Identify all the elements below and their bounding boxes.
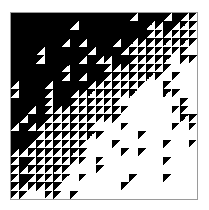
black-tile bbox=[45, 47, 53, 55]
black-tile bbox=[104, 47, 112, 55]
white-tile bbox=[180, 174, 188, 182]
triangle-tile bbox=[62, 106, 70, 114]
triangle-tile bbox=[112, 140, 120, 148]
white-tile bbox=[163, 191, 171, 199]
triangle-tile bbox=[87, 47, 95, 55]
black-tile bbox=[36, 13, 44, 21]
white-tile bbox=[138, 123, 146, 131]
triangle-tile bbox=[155, 72, 163, 80]
triangle-tile bbox=[53, 123, 61, 131]
black-tile bbox=[70, 13, 78, 21]
black-tile bbox=[53, 72, 61, 80]
triangle-tile bbox=[19, 148, 27, 156]
triangle-tile bbox=[11, 165, 19, 173]
white-tile bbox=[146, 174, 154, 182]
white-tile bbox=[87, 140, 95, 148]
white-tile bbox=[28, 191, 36, 199]
triangle-tile bbox=[45, 123, 53, 131]
white-tile bbox=[138, 89, 146, 97]
black-tile bbox=[19, 55, 27, 63]
black-tile bbox=[36, 72, 44, 80]
white-tile bbox=[146, 182, 154, 190]
white-tile bbox=[146, 123, 154, 131]
black-tile bbox=[11, 140, 19, 148]
black-tile bbox=[28, 55, 36, 63]
triangle-tile bbox=[28, 140, 36, 148]
white-tile bbox=[129, 148, 137, 156]
white-tile bbox=[112, 182, 120, 190]
triangle-tile bbox=[36, 165, 44, 173]
triangle-tile bbox=[79, 98, 87, 106]
white-tile bbox=[138, 174, 146, 182]
triangle-tile bbox=[155, 47, 163, 55]
black-tile bbox=[28, 38, 36, 46]
triangle-tile bbox=[180, 38, 188, 46]
black-tile bbox=[45, 38, 53, 46]
black-tile bbox=[96, 72, 104, 80]
white-tile bbox=[155, 191, 163, 199]
black-tile bbox=[11, 30, 19, 38]
white-tile bbox=[163, 131, 171, 139]
black-tile bbox=[45, 64, 53, 72]
white-tile bbox=[70, 174, 78, 182]
triangle-tile bbox=[36, 123, 44, 131]
white-tile bbox=[172, 98, 180, 106]
white-tile bbox=[129, 123, 137, 131]
black-tile bbox=[129, 30, 137, 38]
triangle-tile bbox=[138, 72, 146, 80]
white-tile bbox=[96, 191, 104, 199]
triangle-tile bbox=[138, 55, 146, 63]
black-tile bbox=[87, 72, 95, 80]
triangle-tile bbox=[163, 89, 171, 97]
triangle-tile bbox=[180, 114, 188, 122]
triangle-tile bbox=[11, 174, 19, 182]
white-tile bbox=[189, 47, 197, 55]
triangle-tile bbox=[79, 140, 87, 148]
triangle-tile bbox=[62, 72, 70, 80]
white-tile bbox=[155, 131, 163, 139]
triangle-tile bbox=[129, 81, 137, 89]
black-tile bbox=[146, 13, 154, 21]
black-tile bbox=[62, 47, 70, 55]
black-tile bbox=[62, 30, 70, 38]
triangle-tile bbox=[70, 140, 78, 148]
white-tile bbox=[189, 131, 197, 139]
white-tile bbox=[70, 182, 78, 190]
triangle-tile bbox=[53, 165, 61, 173]
black-tile bbox=[19, 72, 27, 80]
triangle-tile bbox=[70, 106, 78, 114]
triangle-tile bbox=[36, 47, 44, 55]
triangle-tile bbox=[70, 131, 78, 139]
white-tile bbox=[138, 114, 146, 122]
white-tile bbox=[189, 106, 197, 114]
white-tile bbox=[155, 157, 163, 165]
triangle-tile bbox=[172, 106, 180, 114]
triangle-tile bbox=[189, 114, 197, 122]
black-tile bbox=[19, 47, 27, 55]
black-tile bbox=[28, 98, 36, 106]
white-tile bbox=[96, 148, 104, 156]
triangle-tile bbox=[112, 72, 120, 80]
white-tile bbox=[163, 165, 171, 173]
triangle-tile bbox=[62, 131, 70, 139]
white-tile bbox=[87, 157, 95, 165]
black-tile bbox=[79, 81, 87, 89]
white-tile bbox=[155, 81, 163, 89]
triangle-tile bbox=[79, 148, 87, 156]
triangle-tile bbox=[11, 81, 19, 89]
triangle-tile bbox=[163, 55, 171, 63]
triangle-tile bbox=[146, 55, 154, 63]
black-tile bbox=[53, 98, 61, 106]
white-tile bbox=[189, 148, 197, 156]
triangle-tile bbox=[129, 55, 137, 63]
triangle-tile bbox=[121, 47, 129, 55]
triangle-tile bbox=[96, 98, 104, 106]
triangle-tile bbox=[45, 106, 53, 114]
black-tile bbox=[45, 21, 53, 29]
triangle-tile bbox=[11, 148, 19, 156]
black-tile bbox=[45, 30, 53, 38]
black-tile bbox=[19, 21, 27, 29]
white-tile bbox=[163, 106, 171, 114]
black-tile bbox=[53, 13, 61, 21]
black-tile bbox=[11, 114, 19, 122]
